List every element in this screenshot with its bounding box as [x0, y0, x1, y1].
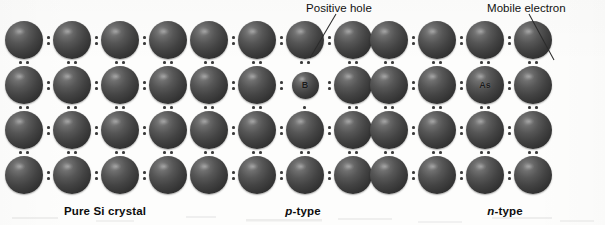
caption-text: -type: [494, 205, 522, 217]
dopant-symbol-label: B: [292, 72, 319, 99]
dopant-atom-as: As: [466, 66, 504, 104]
dopant-symbol-label: As: [466, 66, 504, 104]
dopant-atom-b: B: [292, 72, 319, 99]
annotation-leader-line-n-type: [0, 0, 605, 225]
semiconductor-doping-figure: Pure Si crystalBPositive holep-typeAsMob…: [0, 0, 605, 225]
